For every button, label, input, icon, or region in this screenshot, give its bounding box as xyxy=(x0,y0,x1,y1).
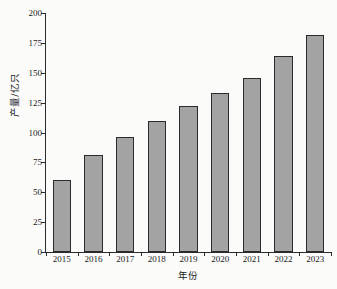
y-axis-tick-label: 200 xyxy=(18,9,42,18)
y-axis-tick-label: 75 xyxy=(18,158,42,167)
y-axis-tick-label: 25 xyxy=(18,218,42,227)
y-axis-tick-label: 125 xyxy=(18,98,42,107)
bar-series xyxy=(46,13,331,252)
y-axis-tick-mark xyxy=(41,222,46,223)
y-axis-tick-label: 175 xyxy=(18,38,42,47)
y-axis-tick-mark xyxy=(41,192,46,193)
y-axis-tick-mark xyxy=(41,162,46,163)
bar xyxy=(274,56,292,252)
x-axis-line xyxy=(45,252,331,253)
bar xyxy=(179,106,197,252)
y-axis-tick-mark xyxy=(41,43,46,44)
bar-chart: 产量/亿只 0255075100125150175200 20152016201… xyxy=(0,0,337,289)
bar xyxy=(53,180,71,252)
x-axis-tick-label: 2023 xyxy=(295,254,335,265)
bar xyxy=(116,137,134,252)
y-axis-tick-mark xyxy=(41,133,46,134)
y-axis-tick-mark xyxy=(41,13,46,14)
bar xyxy=(306,35,324,252)
y-axis-tick-label: 50 xyxy=(18,188,42,197)
y-axis-tick-label: 0 xyxy=(18,248,42,257)
bar xyxy=(84,155,102,252)
bar xyxy=(148,121,166,252)
bar xyxy=(211,93,229,252)
plot-area xyxy=(46,13,331,252)
y-axis-tick-label: 150 xyxy=(18,68,42,77)
x-axis-title: 年份 xyxy=(46,268,331,282)
x-axis-tick-labels: 201520162017201820192020202120222023 xyxy=(46,254,331,268)
y-axis-tick-mark xyxy=(41,103,46,104)
y-axis-tick-mark xyxy=(41,73,46,74)
y-axis-tick-label: 100 xyxy=(18,128,42,137)
bar xyxy=(243,78,261,252)
y-axis-tick-labels: 0255075100125150175200 xyxy=(18,13,42,252)
